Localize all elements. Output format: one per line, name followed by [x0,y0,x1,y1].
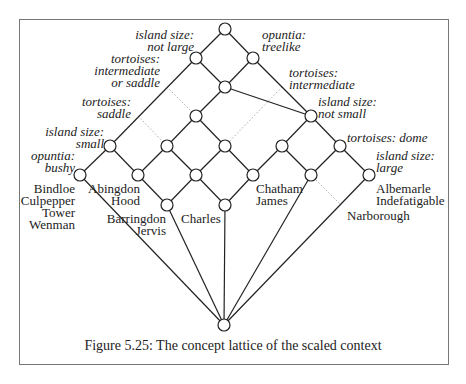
concept-node [104,140,116,152]
obj-chatham-group: ChathamJames [256,183,303,207]
concept-node [247,52,259,64]
concept-node [363,169,375,181]
concept-node [190,169,202,181]
concept-node [190,110,202,122]
concept-node [219,23,231,35]
concept-node [161,140,173,152]
concept-node [305,110,317,122]
concept-node [161,199,173,211]
concept-node [219,199,231,211]
attr-island-large: island size:large [376,150,435,174]
attr-tortoises-dome: tortoises: dome [347,132,428,144]
concept-node [132,169,144,181]
obj-barringdon-group: BarringdonJervis [107,213,166,237]
concept-node [219,140,231,152]
concept-node [247,169,259,181]
obj-narborough: Narborough [347,210,410,222]
attr-opuntia-bushy: opuntia:bushy [31,150,75,174]
obj-bindloe-group: BindloeCulpepperTowerWenman [21,183,75,231]
obj-abingdon-group: AbingdonHood [88,183,140,207]
attr-island-not-large: island size:not large [135,29,194,53]
attr-opuntia-treelike: opuntia:treelike [262,29,306,53]
concept-node [74,169,86,181]
concept-node [334,140,346,152]
concept-node [276,140,288,152]
attr-tortoises-saddle: tortoises:saddle [82,96,131,120]
attr-island-small: island size:small [45,126,104,150]
concept-node [305,169,317,181]
attr-island-not-small: island size:not small [318,96,377,120]
concept-node [218,319,230,331]
concept-node [219,81,231,93]
obj-charles: Charles [181,213,221,225]
figure-caption: Figure 5.25: The concept lattice of the … [0,338,466,354]
lattice-edge [224,205,225,325]
attr-tortoises-intermediate: tortoises:intermediate [289,67,355,91]
obj-albemarle-group: AlbemarleIndefatigable [376,183,445,207]
attr-tortoises-intermediate-or-saddle: tortoises:intermediateor saddle [94,53,160,89]
dotted-edge [225,87,282,146]
